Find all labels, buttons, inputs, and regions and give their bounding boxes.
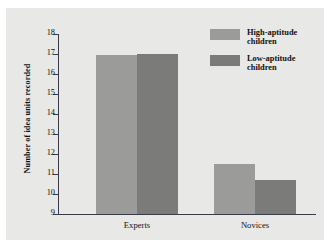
legend-label: Low-aptitude children: [247, 54, 295, 73]
chart-panel: Number of idea units recorded 9101112131…: [6, 8, 324, 240]
bar: [137, 54, 178, 214]
y-tick-label: 12: [33, 148, 55, 157]
y-tick-label: 13: [33, 128, 55, 137]
legend-item: High-aptitude children: [210, 28, 322, 47]
legend-swatch: [210, 55, 240, 66]
y-tick-label: 14: [33, 108, 55, 117]
bar: [214, 164, 255, 214]
y-tick-label: 15: [33, 88, 55, 97]
legend: High-aptitude childrenLow-aptitude child…: [210, 28, 322, 80]
y-tick-label: 17: [33, 48, 55, 57]
bar: [96, 55, 137, 214]
y-tick-label: 16: [33, 68, 55, 77]
legend-label: High-aptitude children: [247, 28, 297, 47]
y-axis-title: Number of idea units recorded: [23, 34, 32, 204]
legend-item: Low-aptitude children: [210, 54, 322, 73]
y-tick-label: 18: [33, 28, 55, 37]
bar: [255, 180, 296, 214]
legend-swatch: [210, 29, 240, 40]
x-axis-line: [58, 214, 316, 215]
x-tick-label: Novices: [205, 220, 305, 230]
y-axis-line: [58, 34, 59, 215]
x-tick-label: Experts: [87, 220, 187, 230]
y-tick-label: 9: [33, 208, 55, 217]
figure: Number of idea units recorded 9101112131…: [0, 0, 330, 247]
y-tick-label: 10: [33, 188, 55, 197]
y-tick-label: 11: [33, 168, 55, 177]
